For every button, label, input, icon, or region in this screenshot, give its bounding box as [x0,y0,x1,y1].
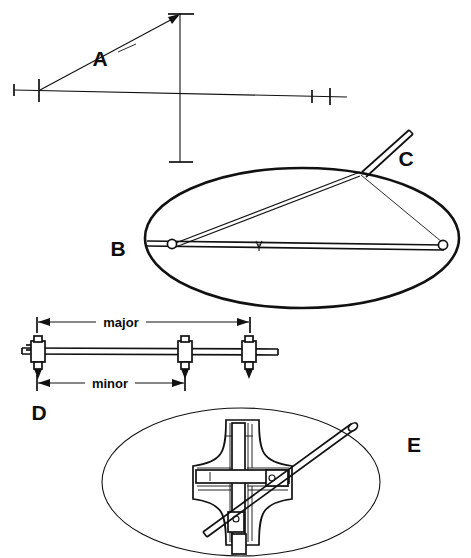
trammel-bar-bottom [22,354,278,355]
vertical-arm-stub [232,534,246,554]
focus-pin-left [167,239,176,248]
collar-body-middle [178,341,192,362]
scriber-shank-middle [181,362,189,369]
panel-label-a: A [92,47,107,70]
collar-thumbscrew-left [34,336,42,342]
panel-label-e: E [407,433,421,456]
scriber-shank-left [34,362,42,369]
collar-body-right [242,341,256,362]
panel-label-b: B [110,237,125,260]
minor-dimension-label: minor [92,376,128,391]
ellipse-construction-figure: A B [0,0,471,558]
scriber-shank-right [245,362,253,369]
collar-thumbscrew-right [245,336,253,342]
focus-pin-right [438,240,447,249]
collar-body-left [31,341,45,362]
panel-label-d: D [31,401,46,424]
panel-label-c: C [398,147,413,170]
trammel-bar-top [22,348,278,349]
major-dimension-label: major [103,315,138,330]
collar-thumbscrew-middle [181,336,189,342]
figure-root: A B [0,0,471,558]
